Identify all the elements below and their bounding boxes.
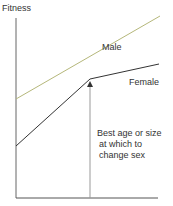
male-label: Male xyxy=(102,42,122,52)
female-label: Female xyxy=(129,77,159,87)
annotation-line-2: at which to xyxy=(99,139,142,149)
y-axis-label: Fitness xyxy=(2,3,31,13)
arrow-head-icon xyxy=(87,81,93,87)
annotation-line-1: Best age or size xyxy=(97,128,162,138)
chart-plot xyxy=(0,0,173,206)
annotation-line-3: change sex xyxy=(99,150,145,160)
